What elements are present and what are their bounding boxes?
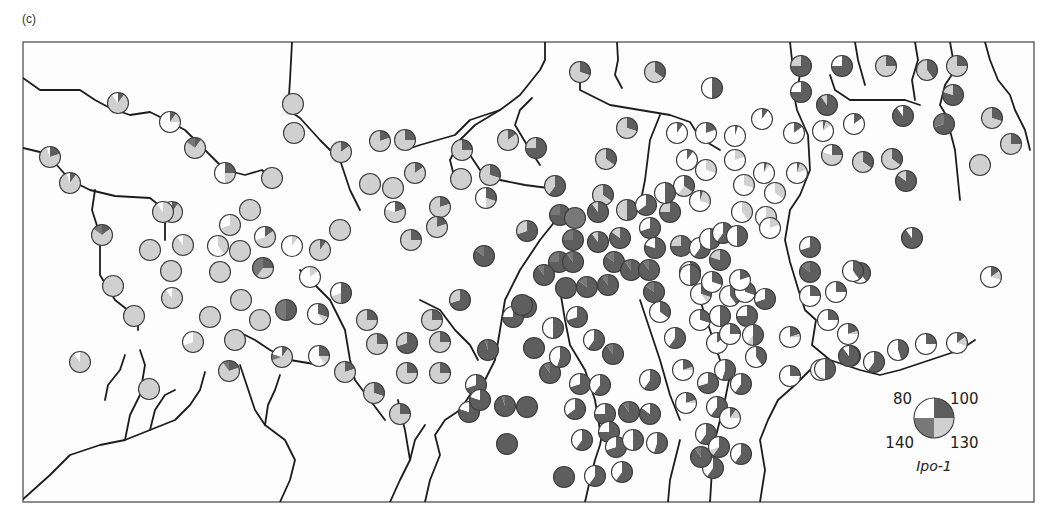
legend-pie-icon bbox=[914, 398, 954, 438]
site-pie-chart bbox=[470, 390, 491, 411]
site-pie-chart bbox=[666, 123, 687, 144]
site-pie-chart bbox=[405, 163, 426, 184]
site-pie-chart bbox=[182, 332, 203, 353]
site-pie-chart bbox=[934, 114, 955, 135]
site-pie-chart bbox=[526, 138, 547, 159]
site-pie-chart bbox=[595, 404, 616, 425]
site-pie-chart bbox=[300, 267, 321, 288]
site-pie-chart bbox=[822, 145, 843, 166]
site-pie-chart bbox=[480, 165, 501, 186]
site-pie-chart bbox=[556, 278, 577, 299]
site-pie-chart bbox=[838, 346, 859, 367]
site-pie-chart bbox=[725, 150, 746, 171]
site-pie-chart bbox=[262, 168, 283, 189]
site-pie-chart bbox=[698, 373, 719, 394]
site-pie-chart bbox=[843, 114, 864, 135]
site-pie-chart bbox=[284, 123, 305, 144]
site-pie-chart bbox=[395, 130, 416, 151]
site-pie-chart bbox=[674, 176, 695, 197]
site-pie-chart bbox=[161, 261, 182, 282]
site-pie-chart bbox=[916, 334, 937, 355]
site-pie-chart bbox=[140, 240, 161, 261]
site-pie-chart bbox=[760, 218, 781, 239]
site-pie-chart bbox=[363, 383, 384, 404]
site-pie-chart bbox=[982, 108, 1003, 129]
site-pie-chart bbox=[401, 230, 422, 251]
site-pie-chart bbox=[947, 56, 968, 77]
site-pie-chart bbox=[888, 340, 909, 361]
site-pie-chart bbox=[598, 275, 619, 296]
site-pie-chart bbox=[943, 85, 964, 106]
site-pie-chart bbox=[585, 466, 606, 487]
site-pie-chart bbox=[896, 170, 917, 191]
site-pie-chart bbox=[720, 408, 741, 429]
site-pie-chart bbox=[562, 252, 583, 273]
site-pie-chart bbox=[947, 333, 968, 354]
site-pie-chart bbox=[572, 430, 593, 451]
site-pie-chart bbox=[787, 163, 808, 184]
site-pie-chart bbox=[791, 56, 812, 77]
site-pie-chart bbox=[755, 289, 776, 310]
site-pie-chart bbox=[577, 277, 598, 298]
site-pie-chart bbox=[231, 290, 252, 311]
site-pie-chart bbox=[644, 282, 665, 303]
site-pie-chart bbox=[730, 444, 751, 465]
site-pie-chart bbox=[596, 149, 617, 170]
site-pie-chart bbox=[639, 260, 660, 281]
site-pie-chart bbox=[617, 200, 638, 221]
site-pie-chart bbox=[832, 56, 853, 77]
site-pie-chart bbox=[390, 404, 411, 425]
site-pie-chart bbox=[384, 202, 405, 223]
site-pie-chart bbox=[430, 332, 451, 353]
site-pie-chart bbox=[252, 258, 273, 279]
site-pie-chart bbox=[240, 200, 261, 221]
site-pie-chart bbox=[671, 236, 692, 257]
site-pie-chart bbox=[660, 202, 681, 223]
site-pie-chart bbox=[690, 310, 711, 331]
site-pie-chart bbox=[864, 352, 885, 373]
site-pie-chart bbox=[430, 197, 451, 218]
site-pie-chart bbox=[680, 265, 701, 286]
site-pie-chart bbox=[383, 178, 404, 199]
site-pie-chart bbox=[743, 325, 764, 346]
site-pie-chart bbox=[817, 95, 838, 116]
site-pie-chart bbox=[746, 347, 767, 368]
site-pie-chart bbox=[882, 149, 903, 170]
site-pie-chart bbox=[640, 218, 661, 239]
site-pie-chart bbox=[335, 362, 356, 383]
site-pie-chart bbox=[478, 340, 499, 361]
site-pie-chart bbox=[162, 288, 183, 309]
site-pie-chart bbox=[512, 295, 533, 316]
site-pie-chart bbox=[813, 121, 834, 142]
site-pie-chart bbox=[283, 94, 304, 115]
site-pie-chart bbox=[639, 404, 660, 425]
site-pie-chart bbox=[160, 112, 181, 133]
site-pie-chart bbox=[397, 333, 418, 354]
site-pie-chart bbox=[818, 310, 839, 331]
site-pie-chart bbox=[225, 330, 246, 351]
site-pie-chart bbox=[230, 241, 251, 262]
site-pie-chart bbox=[207, 236, 228, 257]
site-pie-chart bbox=[843, 261, 864, 282]
legend-label-140: 140 bbox=[885, 434, 914, 452]
site-pie-chart bbox=[497, 434, 518, 455]
site-pie-chart bbox=[752, 109, 773, 130]
site-pie-chart bbox=[970, 155, 991, 176]
site-pie-chart bbox=[108, 93, 129, 114]
site-pie-chart bbox=[732, 202, 753, 223]
site-pie-chart bbox=[730, 374, 751, 395]
site-pie-chart bbox=[676, 393, 697, 414]
site-pie-chart bbox=[655, 183, 676, 204]
site-pie-chart bbox=[617, 118, 638, 139]
site-pie-chart bbox=[800, 262, 821, 283]
site-pie-chart bbox=[565, 208, 586, 229]
site-pie-chart bbox=[103, 276, 124, 297]
site-pie-chart bbox=[730, 270, 751, 291]
site-pie-chart bbox=[422, 310, 443, 331]
site-pie-chart bbox=[570, 374, 591, 395]
site-pie-chart bbox=[549, 347, 570, 368]
site-pie-chart bbox=[612, 462, 633, 483]
site-pie-chart bbox=[543, 318, 564, 339]
site-pie-chart bbox=[92, 225, 113, 246]
site-pie-chart bbox=[255, 227, 276, 248]
